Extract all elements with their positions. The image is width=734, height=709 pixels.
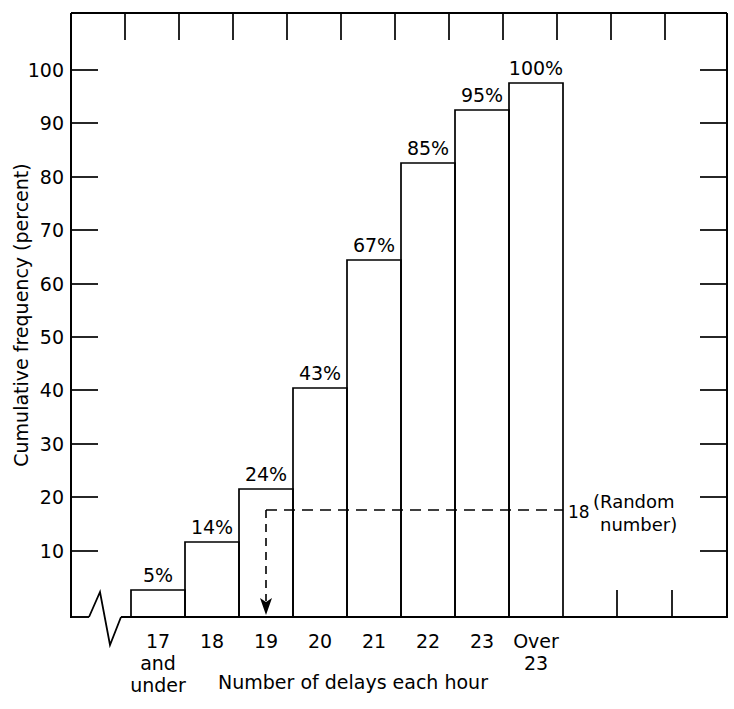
y-tick-label: 100 [28, 59, 64, 81]
bar-over-23[interactable] [509, 83, 563, 617]
x-tick-label: 17 [146, 630, 170, 652]
bar-20[interactable] [293, 388, 347, 617]
bar-value-label: 100% [509, 57, 563, 79]
chart-figure: 100 90 80 70 60 50 40 30 20 10 Cumulativ… [0, 0, 734, 709]
bar-17-and-under[interactable] [131, 590, 185, 617]
x-tick-label-line2: and [140, 652, 176, 674]
right-axis-ticks [700, 70, 727, 551]
bar-21[interactable] [347, 260, 401, 617]
bottom-axis-ticks [617, 590, 672, 617]
x-tick-label: 20 [308, 630, 332, 652]
y-tick-label: 90 [40, 112, 64, 134]
y-axis-tick-labels: 100 90 80 70 60 50 40 30 20 10 [28, 59, 64, 562]
x-tick-label: 23 [470, 630, 494, 652]
y-axis-title: Cumulative frequency (percent) [10, 163, 32, 466]
bar-value-label: 24% [245, 463, 287, 485]
y-tick-label: 50 [40, 326, 64, 348]
y-tick-label: 70 [40, 219, 64, 241]
x-tick-label: 18 [200, 630, 224, 652]
x-tick-label: 19 [254, 630, 278, 652]
annotation-caption-line1: (Random [593, 491, 675, 512]
y-tick-label: 80 [40, 166, 64, 188]
x-axis-title: Number of delays each hour [218, 671, 488, 693]
x-tick-label-line3: under [130, 674, 186, 696]
bar-value-labels: 5% 14% 24% 43% 67% 85% 95% 100% [143, 57, 563, 586]
bar-18[interactable] [185, 542, 239, 617]
x-tick-label-line2: 23 [524, 652, 548, 674]
bar-23[interactable] [455, 110, 509, 617]
y-tick-label: 40 [40, 379, 64, 401]
y-tick-label: 10 [40, 540, 64, 562]
x-tick-label: Over [513, 630, 559, 652]
y-tick-label: 30 [40, 433, 64, 455]
y-tick-label: 20 [40, 486, 64, 508]
bar-value-label: 85% [407, 137, 449, 159]
bar-value-label: 5% [143, 564, 173, 586]
bar-value-label: 67% [353, 234, 395, 256]
bar-value-label: 43% [299, 362, 341, 384]
annotation-value-label: 18 [568, 502, 590, 522]
bar-22[interactable] [401, 163, 455, 617]
y-axis-ticks [71, 70, 98, 551]
bar-value-label: 14% [191, 516, 233, 538]
y-tick-label: 60 [40, 273, 64, 295]
bar-value-label: 95% [461, 84, 503, 106]
random-number-annotation: 18 (Random number) [260, 491, 677, 615]
x-tick-label: 22 [416, 630, 440, 652]
top-axis-ticks [125, 13, 665, 40]
cumulative-frequency-histogram: 100 90 80 70 60 50 40 30 20 10 Cumulativ… [0, 0, 734, 709]
x-tick-label: 21 [362, 630, 386, 652]
annotation-caption-line2: number) [600, 514, 677, 535]
